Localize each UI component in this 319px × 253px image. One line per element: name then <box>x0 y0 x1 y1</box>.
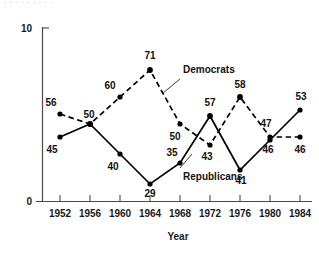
data-point-rep-1960 <box>117 151 122 156</box>
data-point-dem-1960 <box>117 94 122 99</box>
data-point-dem-1952 <box>57 111 62 116</box>
point-label-rep-1984: 53 <box>295 91 307 102</box>
xtick-label-1964: 1964 <box>139 208 162 219</box>
xtick-label-1956: 1956 <box>79 208 102 219</box>
point-label-rep-1960: 40 <box>107 161 119 172</box>
series-annotation-democrats: Democrats <box>183 64 235 75</box>
point-label-dem-1980: 46 <box>262 144 274 155</box>
series-annotation-republicans: Republicans <box>183 171 243 182</box>
data-point-dem-1976 <box>237 94 243 100</box>
point-label-dem-1960: 60 <box>104 80 116 91</box>
chart-canvas: 10 0 1952 1956 1960 1964 1968 1972 1976 … <box>0 0 319 253</box>
data-point-dem-1964 <box>147 67 153 73</box>
data-point-rep-1980 <box>267 137 272 142</box>
point-label-rep-1972: 57 <box>204 97 216 108</box>
point-label-dem-1984: 46 <box>294 144 306 155</box>
xtick-label-1984: 1984 <box>289 208 312 219</box>
point-label-dem-1972: 43 <box>201 151 213 162</box>
xtick-label-1972: 1972 <box>199 208 222 219</box>
point-label-dem-1964: 71 <box>144 50 156 61</box>
point-label-rep-1968: 35 <box>166 147 178 158</box>
ytick-label-0: 0 <box>26 196 32 207</box>
x-axis-title: Year <box>167 231 188 242</box>
data-point-crossover-1956 <box>87 121 93 127</box>
xtick-label-1980: 1980 <box>259 208 282 219</box>
data-point-rep-1952 <box>57 134 62 139</box>
xtick-label-1976: 1976 <box>229 208 252 219</box>
xtick-label-1952: 1952 <box>49 208 72 219</box>
xtick-label-1968: 1968 <box>169 208 192 219</box>
data-point-dem-1984 <box>297 134 302 139</box>
line-chart: 10 0 1952 1956 1960 1964 1968 1972 1976 … <box>0 0 319 253</box>
point-label-dem-1952: 56 <box>45 97 57 108</box>
ytick-label-10: 10 <box>21 23 33 34</box>
point-label-rep-1980: 47 <box>260 118 272 129</box>
data-point-rep-1964 <box>147 181 152 186</box>
data-point-dem-1968 <box>177 121 182 126</box>
data-point-rep-1968 <box>177 160 182 165</box>
point-label-rep-1952: 45 <box>46 144 58 155</box>
point-label-rep-1964: 29 <box>144 188 156 199</box>
data-point-rep-1984 <box>297 107 302 112</box>
data-point-dem-1972 <box>207 142 212 147</box>
data-point-rep-1972 <box>207 113 213 119</box>
point-label-dem-1956: 50 <box>83 109 95 120</box>
leader-line-democrats <box>163 79 180 93</box>
point-label-dem-1968: 50 <box>169 131 181 142</box>
xtick-label-1960: 1960 <box>109 208 132 219</box>
point-label-dem-1976: 58 <box>234 79 246 90</box>
